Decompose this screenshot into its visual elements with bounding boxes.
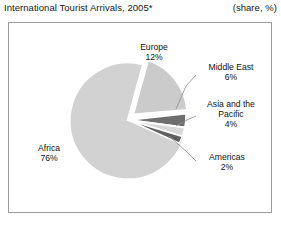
pie-label-americas-name: Americas: [196, 152, 258, 162]
page-title: International Tourist Arrivals, 2005*: [4, 2, 152, 13]
chart-header: International Tourist Arrivals, 2005* (s…: [4, 2, 277, 13]
pie-label-americas: Americas 2%: [196, 152, 258, 172]
pie-label-asia-pacific-name-2: Pacific: [196, 109, 266, 119]
pie-label-africa-value: 76%: [26, 153, 72, 163]
pie-label-middle-east-name: Middle East: [196, 62, 266, 72]
pie-label-europe-name: Europe: [127, 42, 181, 52]
pie-label-africa: Africa 76%: [26, 143, 72, 163]
pie-label-europe: Europe 12%: [127, 42, 181, 62]
pie-label-middle-east: Middle East 6%: [196, 62, 266, 82]
pie-label-asia-pacific-name-1: Asia and the: [196, 99, 266, 109]
pie-label-asia-pacific-value: 4%: [196, 119, 266, 129]
unit-note: (share, %): [233, 2, 277, 13]
pie-label-americas-value: 2%: [196, 162, 258, 172]
chart-page: International Tourist Arrivals, 2005* (s…: [0, 0, 281, 226]
pie-label-europe-value: 12%: [127, 52, 181, 62]
pie-label-africa-name: Africa: [26, 143, 72, 153]
pie-label-asia-pacific: Asia and the Pacific 4%: [196, 99, 266, 130]
pie-label-middle-east-value: 6%: [196, 72, 266, 82]
